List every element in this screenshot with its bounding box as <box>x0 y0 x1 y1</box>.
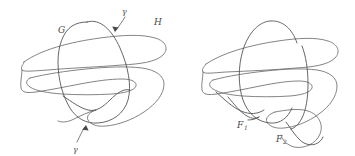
curve-right-band-upper <box>202 38 338 73</box>
label-F1: F <box>236 120 244 130</box>
curve-H-outer-band <box>21 35 166 71</box>
diagram-canvas: G H γ γ F 1 <box>0 0 355 156</box>
curve-H-inner-hook <box>21 70 136 95</box>
label-G: G <box>58 25 65 35</box>
label-F2: F <box>275 134 283 144</box>
label-F1-group: F 1 <box>236 120 248 131</box>
curve-right-egg-free-end <box>291 46 308 129</box>
label-F1-subscript: 1 <box>244 124 248 131</box>
curve-H-lower-band <box>30 67 164 126</box>
label-gamma-bottom: γ <box>73 145 78 154</box>
curve-right-egg-open <box>239 21 297 123</box>
label-H: H <box>153 17 162 27</box>
curve-right-band-lower <box>213 69 337 128</box>
label-F2-group: F 2 <box>275 134 287 145</box>
left-panel: G H γ γ <box>21 7 166 154</box>
gamma-bottom-arrowhead <box>82 125 88 130</box>
label-gamma-top: γ <box>122 7 127 16</box>
curve-right-F2-crescent <box>286 122 323 145</box>
gamma-top-arrowhead <box>112 27 118 32</box>
curve-right-band-hook <box>202 72 312 97</box>
curve-G-closed-egg <box>58 21 130 123</box>
figure-root: G H γ γ F 1 <box>0 0 355 156</box>
label-F2-subscript: 2 <box>282 138 287 145</box>
right-panel: F 1 F 2 <box>202 21 338 148</box>
